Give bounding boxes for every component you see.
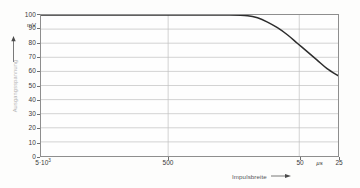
y-axis-tick-label: 70 [29,54,36,61]
x-axis-tick-mark [168,157,169,160]
x-axis-tick-container: µs 5·1035005025 [0,157,360,171]
x-axis-title: Impulsbreite [232,173,267,180]
y-axis-tick-label: 30 [29,111,36,118]
x-axis-tick-label: 25 [335,160,342,167]
plot-area [40,14,339,157]
x-axis-tick-label: 500 [163,160,174,167]
y-axis-tick-label: 50 [29,82,36,89]
y-axis-tick-label: 10 [29,139,36,146]
x-axis-tick-label: 50 [296,160,303,167]
x-axis-arrow-icon [271,173,291,179]
x-axis-tick-label: 5·103 [35,160,51,167]
x-axis-unit-label: µs [316,160,322,166]
y-axis-tick-label: 80 [29,39,36,46]
series-line [41,15,338,76]
x-axis-tick-mark [339,157,340,160]
x-axis-title-container: Impulsbreite [232,170,291,182]
data-curve [41,15,338,156]
y-axis-tick-label: 20 [29,125,36,132]
chart-figure: Ausgangsspannung mV 10090807060504030201… [0,0,360,188]
y-axis-tick-label: 40 [29,97,36,104]
y-axis-tick-label: 100 [25,12,36,19]
y-axis-tick-container: mV 1009080706050403020100 [0,14,40,157]
y-axis-tick-label: 90 [29,25,36,32]
y-axis-tick-label: 60 [29,68,36,75]
x-axis-tick-mark [300,157,301,160]
